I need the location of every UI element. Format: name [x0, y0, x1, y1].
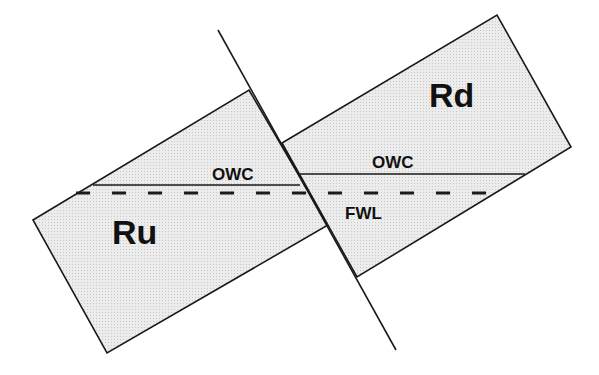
owc-label-ru: OWC: [212, 165, 254, 184]
fault-block-diagram: OWC OWC FWL Ru Rd: [0, 0, 599, 375]
owc-label-rd: OWC: [372, 153, 414, 172]
ru-label: Ru: [112, 213, 157, 251]
rd-label: Rd: [429, 76, 474, 114]
fwl-label: FWL: [345, 204, 382, 223]
block-ru: [33, 90, 328, 353]
block-rd: [282, 15, 571, 277]
